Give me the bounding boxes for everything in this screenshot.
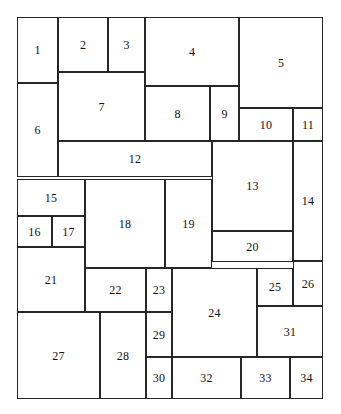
rect-cell-31: [257, 306, 323, 357]
rect-cell-34: [290, 357, 323, 399]
rect-cell-21: [17, 247, 85, 312]
rect-cell-29: [146, 312, 172, 357]
rect-cell-23: [146, 268, 172, 312]
rect-cell-12: [58, 141, 212, 177]
rect-cell-18: [85, 179, 165, 268]
rect-cell-5: [239, 17, 323, 108]
rect-cell-4: [145, 17, 239, 86]
rect-cell-15: [17, 179, 85, 216]
rectangle-partition-diagram: 1234567891011121314151617181920212223242…: [0, 0, 341, 414]
rect-cell-9: [210, 86, 239, 141]
rect-cell-27: [17, 312, 100, 399]
rect-cell-30: [146, 357, 172, 399]
rect-cell-19: [165, 179, 212, 268]
rect-cell-6: [17, 83, 58, 177]
rect-cell-22: [85, 268, 146, 312]
rect-cell-10: [239, 108, 293, 141]
rect-cell-16: [17, 216, 52, 247]
rect-cell-24: [172, 268, 257, 357]
rectangle-layer: 1234567891011121314151617181920212223242…: [0, 0, 341, 414]
rect-cell-7: [58, 72, 145, 141]
rect-cell-2: [58, 17, 108, 72]
rect-cell-17: [52, 216, 85, 247]
rect-cell-14: [293, 141, 323, 261]
rect-cell-28: [100, 312, 146, 399]
rect-cell-13: [212, 141, 293, 231]
rect-cell-3: [108, 17, 145, 72]
rect-cell-1: [17, 17, 58, 83]
rect-cell-25: [257, 268, 293, 306]
rect-cell-33: [241, 357, 290, 399]
rect-cell-26: [293, 261, 323, 306]
rect-cell-8: [145, 86, 210, 141]
rect-cell-11: [293, 108, 323, 141]
rect-cell-32: [172, 357, 241, 399]
rect-cell-20: [212, 231, 293, 262]
